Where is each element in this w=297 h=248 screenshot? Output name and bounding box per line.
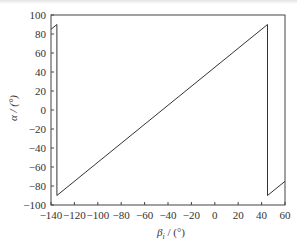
- x-axis-label: βi / (°): [156, 226, 185, 241]
- x-tick-label: −120: [63, 209, 86, 221]
- y-axis: −100−80−60−40−20020406080100: [23, 9, 54, 211]
- x-tick-label: 60: [280, 209, 292, 221]
- y-tick-label: 80: [35, 28, 47, 40]
- x-tick-label: −60: [136, 209, 154, 221]
- y-tick-label: −20: [29, 123, 47, 135]
- y-tick-label: 100: [30, 9, 47, 21]
- x-tick-label: −100: [86, 209, 109, 221]
- x-tick-label: −80: [113, 209, 131, 221]
- chart: −100−80−60−40−20020406080100 −140−120−10…: [0, 0, 297, 248]
- x-tick-label: −20: [183, 209, 201, 221]
- x-tick-label: 0: [212, 209, 218, 221]
- y-tick-label: 60: [35, 47, 47, 59]
- y-axis-label: α / (°): [7, 95, 20, 121]
- y-tick-label: 40: [35, 66, 47, 78]
- y-tick-label: −40: [29, 142, 47, 154]
- plot-frame: [51, 15, 285, 205]
- x-tick-label: −140: [40, 209, 63, 221]
- y-tick-label: −60: [29, 161, 47, 173]
- series-line: [51, 25, 285, 196]
- y-tick-label: −80: [29, 180, 47, 192]
- x-tick-label: −40: [159, 209, 177, 221]
- y-tick-label: 20: [35, 85, 47, 97]
- y-tick-label: 0: [41, 104, 47, 116]
- data-series: [51, 25, 285, 196]
- x-tick-label: 40: [256, 209, 268, 221]
- x-tick-label: 20: [233, 209, 245, 221]
